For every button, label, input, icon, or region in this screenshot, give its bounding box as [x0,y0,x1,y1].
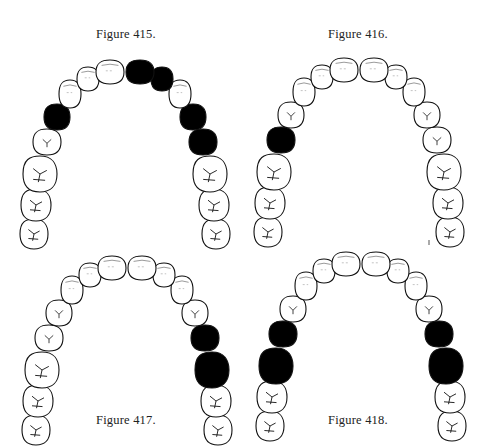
tooth-left-second_premolar [33,129,61,155]
dental-arch-figure-417 [22,248,232,447]
tooth-left-first_molar [257,154,291,190]
tooth-right-first_molar [193,156,227,192]
tooth-right-central_incisor [362,252,390,276]
tooth-left-first_molar [259,348,293,384]
tooth-right-first_molar [427,154,461,190]
dental-arch-figure-416 [254,50,464,249]
tooth-left-second_premolar [269,321,297,347]
tooth-right-second_molar [201,385,231,417]
tooth-left-third_molar [22,415,50,445]
tooth-left-central_incisor [98,256,126,280]
tooth-right-first_molar [195,352,229,388]
tooth-left-third_molar [254,217,282,247]
tooth-right-second_premolar [425,321,453,347]
tooth-left-central_incisor [332,252,360,276]
tooth-left-second_premolar [267,127,295,153]
figure-415-caption: Figure 415. [96,27,156,42]
tooth-left-second_molar [23,385,53,417]
tooth-left-second_molar [257,381,287,413]
tooth-right-second_molar [433,187,463,219]
tooth-right-central_incisor [360,58,388,82]
figure-416-caption: Figure 416. [328,27,388,42]
tooth-left-second_premolar [35,325,63,351]
tooth-left-first_molar [25,352,59,388]
tooth-right-central_incisor [128,256,156,280]
tooth-left-first_molar [23,156,57,192]
tooth-right-third_molar [202,219,230,249]
tooth-left-central_incisor [96,60,124,84]
tooth-right-second_molar [199,189,229,221]
tooth-right-third_molar [204,415,232,445]
tooth-right-third_molar [438,411,466,441]
tooth-right-first_molar [429,348,463,384]
tooth-right-third_molar [436,217,464,247]
tooth-right-second_molar [435,381,465,413]
tooth-right-second_premolar [423,127,451,153]
tooth-right-second_premolar [189,129,217,155]
tooth-left-third_molar [20,219,48,249]
tooth-left-third_molar [256,411,284,441]
tooth-left-second_molar [21,189,51,221]
dental-arch-figure-418 [256,244,466,443]
dental-arch-figure-415 [20,52,230,251]
tooth-right-second_premolar [191,325,219,351]
tooth-right-central_incisor [126,60,154,84]
tooth-left-central_incisor [330,58,358,82]
tooth-left-second_molar [255,187,285,219]
